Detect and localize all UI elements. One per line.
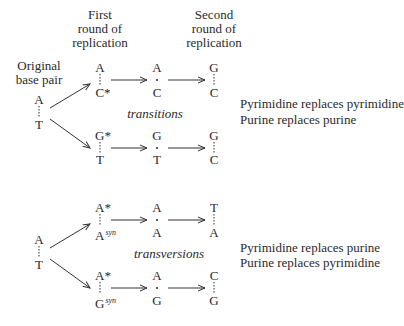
header-original-base-pair: Original base pair (16, 59, 63, 87)
intermediate-bottom: A (152, 226, 161, 240)
syn-superscript: syn (105, 228, 116, 237)
intermediate-top: A (152, 61, 161, 75)
transversions-description-1: Pyrimidine replaces purine (240, 241, 380, 255)
second-round-top: G (209, 129, 218, 143)
transitions-label: transitions (127, 107, 183, 121)
transversions-label: transversions (134, 247, 204, 261)
first-round-bottom: C* (95, 86, 110, 100)
original-bottom-base: T (35, 258, 43, 272)
original-top-base: A (34, 233, 43, 247)
intermediate-bottom: G (152, 294, 161, 308)
header-line: Second (186, 8, 242, 22)
base: G (95, 296, 104, 311)
intermediate-bottom: C (153, 86, 162, 100)
second-round-bottom: G (209, 294, 218, 308)
first-round-bottom: Gsyn (95, 294, 116, 311)
header-line: Original (16, 59, 63, 73)
header-first-round: First round of replication (72, 8, 128, 50)
transitions-description-2: Purine replaces purine (240, 113, 356, 127)
second-round-bottom: A (209, 226, 218, 240)
first-round-top: G* (95, 129, 111, 143)
header-line: First (72, 8, 128, 22)
second-round-bottom: C (210, 153, 219, 167)
second-round-top: G (209, 61, 218, 75)
original-top-base: A (34, 93, 43, 107)
header-line: round of (186, 22, 242, 36)
header-line: replication (72, 36, 128, 50)
header-line: round of (72, 22, 128, 36)
first-round-top: A* (95, 201, 111, 215)
transitions-description-1: Pyrimidine replaces pyrimidine (240, 97, 404, 111)
header-line: base pair (16, 73, 63, 87)
first-round-bottom: T (96, 153, 104, 167)
intermediate-bottom: T (153, 153, 161, 167)
intermediate-top: G (152, 129, 161, 143)
intermediate-top: A (152, 269, 161, 283)
transversions-description-2: Purine replaces pyrimidine (240, 256, 380, 270)
base: A (95, 228, 104, 243)
original-bottom-base: T (35, 118, 43, 132)
header-second-round: Second round of replication (186, 8, 242, 50)
intermediate-top: A (152, 201, 161, 215)
first-round-bottom: Asyn (95, 226, 116, 243)
syn-superscript: syn (105, 296, 116, 305)
first-round-top: A (95, 61, 104, 75)
second-round-top: T (210, 201, 218, 215)
header-line: replication (186, 36, 242, 50)
second-round-top: C (210, 269, 219, 283)
second-round-bottom: C (210, 86, 219, 100)
first-round-top: A* (95, 269, 111, 283)
